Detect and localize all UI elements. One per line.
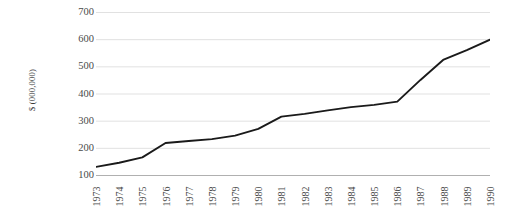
y-axis-tick-label: 300 — [56, 116, 94, 127]
x-axis-tick-text: 1976 — [160, 187, 171, 207]
x-axis-tick-label: 1977 — [182, 177, 196, 221]
x-axis-tick-text: 1984 — [345, 187, 356, 207]
x-axis-tick-label: 1979 — [228, 177, 242, 221]
y-axis-tick-label: 600 — [56, 34, 94, 45]
x-axis-tick-label: 1985 — [367, 177, 381, 221]
x-axis-tick-text: 1979 — [230, 187, 241, 207]
x-axis-tick-label: 1978 — [205, 177, 219, 221]
x-axis-tick-text: 1989 — [461, 187, 472, 207]
x-axis-tick-label: 1981 — [274, 177, 288, 221]
x-axis-tick-text: 1974 — [114, 187, 125, 207]
x-axis-tick-text: 1986 — [392, 187, 403, 207]
plot-area — [96, 12, 490, 175]
x-axis-tick-text: 1987 — [415, 187, 426, 207]
y-axis-tick-label: 400 — [56, 89, 94, 100]
x-axis-tick-text: 1978 — [206, 187, 217, 207]
x-axis-tick-label: 1987 — [413, 177, 427, 221]
x-axis-tick-label: 1983 — [321, 177, 335, 221]
x-axis-tick-text: 1988 — [438, 187, 449, 207]
chart-canvas — [96, 12, 490, 177]
x-axis-tick-text: 1985 — [369, 187, 380, 207]
x-axis-tick-label: 1989 — [460, 177, 474, 221]
x-axis-tick-label: 1984 — [344, 177, 358, 221]
x-axis-tick-text: 1983 — [322, 187, 333, 207]
x-axis-tick-label: 1988 — [437, 177, 451, 221]
x-axis-tick-text: 1980 — [253, 187, 264, 207]
x-axis-tick-label: 1973 — [89, 177, 103, 221]
y-axis-tick-label: 700 — [56, 7, 94, 18]
x-axis-tick-text: 1981 — [276, 187, 287, 207]
x-axis-tick-label: 1982 — [298, 177, 312, 221]
x-axis-tick-labels: 1973197419751976197719781979198019811982… — [96, 177, 490, 222]
x-axis-tick-label: 1975 — [135, 177, 149, 221]
x-axis-tick-text: 1977 — [183, 187, 194, 207]
y-axis-tick-labels: 100200300400500600700 — [20, 0, 94, 222]
x-axis-tick-label: 1986 — [390, 177, 404, 221]
x-axis-tick-label: 1990 — [483, 177, 497, 221]
line-chart: $ (000,000) 100200300400500600700 197319… — [0, 0, 513, 222]
x-axis-tick-label: 1976 — [159, 177, 173, 221]
x-axis-tick-text: 1973 — [91, 187, 102, 207]
y-axis-tick-label: 500 — [56, 61, 94, 72]
gridlines — [96, 13, 490, 176]
x-axis-tick-text: 1990 — [485, 187, 496, 207]
y-axis-tick-label: 200 — [56, 143, 94, 154]
x-axis-tick-label: 1980 — [251, 177, 265, 221]
x-axis-tick-label: 1974 — [112, 177, 126, 221]
data-series-line — [96, 40, 490, 167]
x-axis-tick-text: 1982 — [299, 187, 310, 207]
x-axis-tick-text: 1975 — [137, 187, 148, 207]
